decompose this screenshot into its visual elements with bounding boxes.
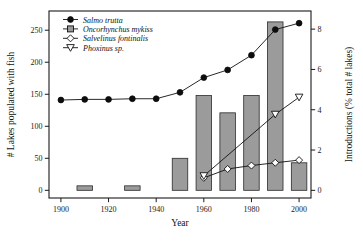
chart-figure: 190019201940196019802000Year050100150200… <box>0 0 363 250</box>
bar-1910 <box>77 186 93 190</box>
marker-salmo-trutta-1940 <box>153 96 159 102</box>
ytick-label-50: 50 <box>35 154 43 163</box>
xtick-label-1900: 1900 <box>53 205 69 214</box>
marker-salmo-trutta-1990 <box>272 27 278 33</box>
marker-phoxinus-sp-2000 <box>295 94 303 101</box>
ytick-label-150: 150 <box>31 90 43 99</box>
xtick-label-1920: 1920 <box>101 205 117 214</box>
legend-label-0: Salmo trutta <box>83 16 123 25</box>
y2tick-label-2: 2 <box>318 146 322 155</box>
legend-label-3: Phoxinus sp. <box>82 44 124 53</box>
marker-salmo-trutta-2000 <box>296 20 302 26</box>
y2-axis-title: Introductions (% total # lakes) <box>344 47 355 163</box>
xtick-label-2000: 2000 <box>291 205 307 214</box>
legend-label-2: Salvelinus fontinalis <box>83 34 148 43</box>
marker-salmo-trutta-1900 <box>58 97 64 103</box>
xtick-label-1980: 1980 <box>243 205 259 214</box>
bar-1930 <box>125 186 141 190</box>
xtick-label-1960: 1960 <box>196 205 212 214</box>
y2tick-label-4: 4 <box>318 106 322 115</box>
xtick-label-1940: 1940 <box>148 205 164 214</box>
legend-marker-2 <box>67 35 74 42</box>
ytick-label-250: 250 <box>31 26 43 35</box>
marker-salmo-trutta-1910 <box>82 96 88 102</box>
legend-marker-0 <box>68 17 74 23</box>
marker-salmo-trutta-1970 <box>225 67 231 73</box>
ytick-label-200: 200 <box>31 58 43 67</box>
ytick-label-100: 100 <box>31 122 43 131</box>
legend-label-1: Oncorhynchus mykiss <box>83 25 153 34</box>
bar-1970 <box>220 113 236 190</box>
y-axis-title: # Lakes populated with fish <box>6 51 16 157</box>
marker-salmo-trutta-1980 <box>249 52 255 58</box>
y2tick-label-6: 6 <box>318 65 322 74</box>
legend-marker-1 <box>68 26 74 32</box>
x-axis-title: Year <box>171 218 189 228</box>
ytick-label-0: 0 <box>39 186 43 195</box>
marker-salmo-trutta-1930 <box>129 96 135 102</box>
bar-1980 <box>244 96 259 191</box>
marker-salmo-trutta-1960 <box>201 75 207 81</box>
y2tick-label-8: 8 <box>318 25 322 34</box>
bar-1950 <box>172 158 188 190</box>
y2tick-label-0: 0 <box>318 186 322 195</box>
marker-salmo-trutta-1950 <box>177 89 183 95</box>
fish-introductions-chart: 190019201940196019802000Year050100150200… <box>0 0 363 250</box>
marker-salmo-trutta-1920 <box>106 96 112 102</box>
bar-2000 <box>291 163 307 191</box>
